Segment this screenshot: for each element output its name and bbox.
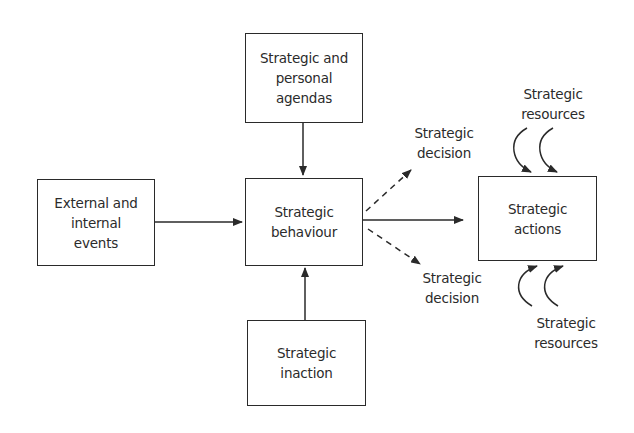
- node-strategic-inaction: Strategic inaction: [247, 320, 366, 406]
- label-strategic-decision-bottom: Strategic decision: [412, 268, 492, 308]
- node-label: Strategic and personal agendas: [260, 48, 348, 108]
- label-strategic-resources-top: Strategic resources: [505, 84, 601, 124]
- label-strategic-decision-top: Strategic decision: [404, 123, 484, 163]
- node-strategic-personal-agendas: Strategic and personal agendas: [245, 33, 363, 123]
- dashed-arrow-decision-top: [366, 170, 411, 211]
- label-strategic-resources-bottom: Strategic resources: [518, 313, 614, 353]
- node-strategic-actions: Strategic actions: [478, 176, 597, 261]
- node-strategic-behaviour: Strategic behaviour: [245, 178, 363, 266]
- node-label: Strategic behaviour: [271, 202, 337, 242]
- curved-arrow-resources-top-1: [514, 128, 531, 172]
- curved-arrow-resources-bottom-2: [545, 266, 563, 306]
- curved-arrow-resources-top-2: [540, 128, 557, 172]
- node-label: External and internal events: [54, 193, 137, 253]
- curved-arrow-resources-bottom-1: [519, 266, 537, 306]
- node-external-internal-events: External and internal events: [37, 179, 155, 266]
- node-label: Strategic actions: [508, 199, 567, 239]
- node-label: Strategic inaction: [277, 343, 336, 383]
- dashed-arrow-decision-bottom: [368, 229, 420, 264]
